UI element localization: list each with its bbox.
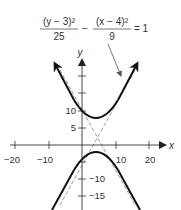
x-tick-label: −10	[37, 154, 53, 165]
fraction-1-numerator: (y − 3)²	[43, 16, 76, 27]
lower-branch-left	[52, 170, 74, 210]
y-tick-label: −10	[89, 173, 105, 184]
y-tick-label: 10	[65, 105, 76, 116]
upper-branch-left	[55, 64, 74, 100]
x-axis-label: x	[168, 140, 175, 151]
y-tick-label: 5	[71, 122, 76, 133]
annotation-pointer	[108, 44, 121, 76]
y-axis-label: y	[77, 47, 84, 58]
x-tick-label: 10	[116, 154, 127, 165]
upper-branch	[74, 100, 118, 118]
fraction-2-numerator: (x − 4)²	[96, 16, 129, 27]
equals-one: = 1	[134, 23, 149, 34]
equation: (y − 3)² 25 − (x − 4)² 9 = 1	[40, 16, 149, 42]
x-tick-label: 20	[145, 154, 156, 165]
minus-sign: −	[82, 23, 88, 34]
fraction-2-denominator: 9	[109, 31, 115, 42]
hyperbola	[52, 64, 140, 210]
lower-branch-right	[118, 170, 140, 210]
hyperbola-figure: (y − 3)² 25 − (x − 4)² 9 = 1 x y	[0, 0, 181, 210]
upper-branch-right	[118, 64, 137, 100]
fraction-1-denominator: 25	[53, 31, 65, 42]
x-tick-label: −20	[4, 154, 20, 165]
y-tick-label: −15	[89, 190, 105, 201]
axes: x y −20 −10 10 20 10 5 −10 −15	[4, 47, 175, 210]
